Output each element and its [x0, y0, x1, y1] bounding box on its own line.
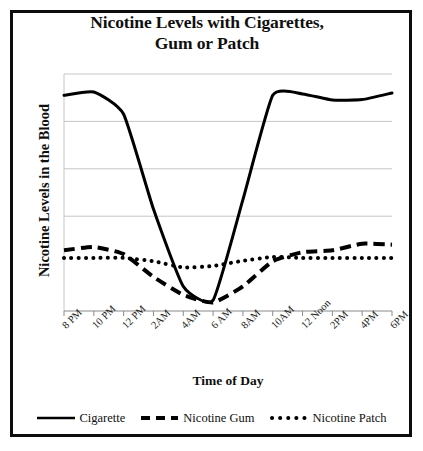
chart-figure: Nicotine Levels with Cigarettes, Gum or …	[0, 0, 423, 451]
series-line-cigarette	[64, 91, 392, 302]
x-axis-title: Time of Day	[60, 373, 396, 389]
legend-item: Nicotine Patch	[269, 411, 387, 426]
gridlines	[64, 74, 392, 216]
solid-line-marker	[36, 412, 76, 424]
legend-label: Nicotine Gum	[183, 411, 254, 426]
axis-lines	[64, 74, 392, 311]
x-axis-ticks	[64, 311, 392, 316]
dotted-line-marker	[269, 412, 309, 424]
chart-legend: CigaretteNicotine GumNicotine Patch	[22, 405, 400, 431]
legend-item: Cigarette	[36, 411, 126, 426]
legend-item: Nicotine Gum	[139, 411, 254, 426]
data-series	[64, 91, 392, 303]
dashed-line-marker	[139, 412, 179, 424]
legend-label: Nicotine Patch	[313, 411, 387, 426]
legend-label: Cigarette	[80, 411, 126, 426]
